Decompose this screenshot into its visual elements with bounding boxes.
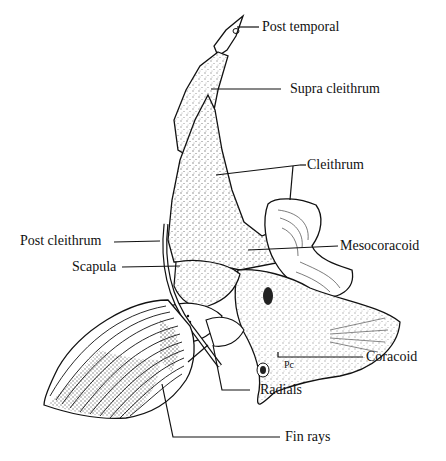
leader-post-cleithrum — [114, 241, 160, 242]
leader-radials — [213, 345, 250, 390]
label-cleithrum: Cleithrum — [307, 157, 364, 173]
label-fin-rays: Fin rays — [285, 429, 331, 445]
label-post-cleithrum: Post cleithrum — [20, 233, 101, 249]
pectoral-girdle-diagram: Pc Post temporal Supra cleithrum Cleithr… — [0, 0, 446, 461]
label-scapula: Scapula — [72, 259, 116, 275]
label-post-temporal: Post temporal — [262, 19, 339, 35]
label-mesocoracoid: Mesocoracoid — [340, 238, 419, 254]
label-coracoid: Coracoid — [366, 349, 417, 365]
scapula-bone — [174, 261, 240, 307]
leader-scapula — [122, 266, 180, 267]
post-temporal-bone — [214, 16, 243, 56]
label-supra-cleithrum: Supra cleithrum — [290, 81, 380, 97]
girdle-illustration: Pc — [0, 0, 446, 461]
pectoral-fin — [44, 300, 194, 418]
label-radials: Radials — [260, 382, 302, 398]
leader-cleithrum-a — [216, 165, 300, 175]
pc-marking: Pc — [284, 359, 295, 370]
leader-cleithrum-b — [290, 166, 293, 200]
